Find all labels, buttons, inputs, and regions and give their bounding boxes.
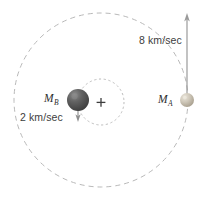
velocity-label-mass-a: 8 km/sec: [139, 35, 182, 46]
mass-b-label-text: M: [44, 92, 54, 104]
mass-b-body: [67, 89, 89, 111]
velocity-arrow-MA: [184, 13, 190, 101]
orbit-diagram-canvas: [0, 0, 208, 200]
mass-a-label-subscript: A: [168, 99, 173, 108]
velocity-label-mass-b: 2 km/sec: [20, 112, 63, 123]
barycenter-marker-icon: [97, 98, 106, 107]
mass-b-label: MB: [44, 93, 58, 105]
mass-b-label-subscript: B: [54, 98, 59, 107]
mass-a-label-text: M: [158, 93, 168, 105]
mass-a-label: MA: [158, 94, 172, 106]
orbit-diagram-figure: MA MB 8 km/sec 2 km/sec: [0, 0, 208, 200]
mass-a-body: [180, 93, 194, 107]
